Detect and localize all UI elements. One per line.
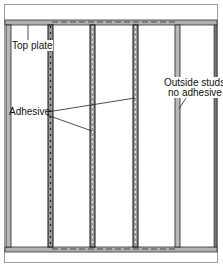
outside-studs-label-line2: no adhesive	[168, 87, 222, 98]
stud-4	[133, 25, 138, 247]
stud-right-edge	[214, 25, 217, 247]
adhesive-leader-2	[47, 115, 92, 131]
stud-right-outside	[175, 25, 180, 247]
stud-2	[48, 25, 53, 247]
top-plate	[5, 20, 217, 25]
top-plate-label: Top plate	[12, 40, 53, 51]
adhesive-label: Adhesive	[9, 106, 50, 117]
stud-left-outside	[6, 25, 11, 247]
bottom-plate	[5, 247, 217, 252]
stud-3	[90, 25, 95, 247]
